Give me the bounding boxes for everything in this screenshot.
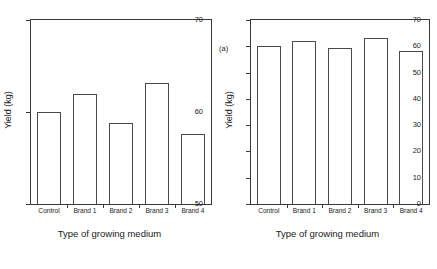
y-tick: [246, 73, 251, 74]
y-tick-label: 50: [413, 69, 421, 77]
y-tick: [246, 151, 251, 152]
x-tick: [103, 204, 104, 208]
y-tick-label: 30: [413, 121, 421, 129]
x-tick-label: Brand 4: [400, 207, 423, 214]
x-tick: [393, 204, 394, 208]
x-axis-title-b: Type of growing medium: [218, 228, 437, 239]
chart-panel-a: 506070 ControlBrand 1Brand 2Brand 3Brand…: [0, 0, 219, 250]
x-tick-label: Brand 3: [145, 207, 168, 214]
y-tick: [26, 204, 31, 205]
bar: [257, 46, 281, 204]
x-tick: [139, 204, 140, 208]
x-tick-label: Control: [38, 207, 59, 214]
y-tick-label: 60: [413, 43, 421, 51]
y-tick: [246, 125, 251, 126]
y-tick-label: 60: [195, 108, 203, 116]
x-tick-label: Brand 1: [293, 207, 316, 214]
bar: [328, 48, 352, 204]
y-tick: [246, 178, 251, 179]
y-tick-label: 20: [413, 148, 421, 156]
y-tick-label: 70: [195, 16, 203, 24]
y-tick-label: 10: [413, 174, 421, 182]
y-tick: [26, 20, 31, 21]
bar: [181, 134, 205, 204]
bar: [37, 112, 61, 204]
x-tick-label: Control: [258, 207, 279, 214]
y-tick-label: 70: [413, 16, 421, 24]
bar-group-b: [251, 20, 429, 204]
y-tick: [246, 99, 251, 100]
bar: [109, 123, 133, 204]
x-tick-label: Brand 2: [328, 207, 351, 214]
x-tick-label: Brand 3: [364, 207, 387, 214]
bar-group-a: [31, 20, 211, 204]
bar: [145, 83, 169, 204]
x-tick-label: Brand 1: [73, 207, 96, 214]
y-tick-label: 40: [413, 95, 421, 103]
x-tick: [358, 204, 359, 208]
y-tick: [246, 46, 251, 47]
y-tick: [26, 112, 31, 113]
x-axis-title-a: Type of growing medium: [0, 228, 219, 239]
plot-area-b: 010203040506070 ControlBrand 1Brand 2Bra…: [250, 19, 430, 205]
x-tick: [322, 204, 323, 208]
y-axis-title-b: Yield (kg): [224, 80, 234, 140]
x-tick-label: Brand 2: [109, 207, 132, 214]
x-tick: [67, 204, 68, 208]
x-tick: [175, 204, 176, 208]
chart-panel-b: 010203040506070 ControlBrand 1Brand 2Bra…: [218, 0, 437, 250]
bar: [292, 41, 316, 204]
y-tick: [246, 204, 251, 205]
y-axis-title-a: Yield (kg): [3, 80, 13, 140]
bar: [73, 94, 97, 204]
x-tick-label: Brand 4: [181, 207, 204, 214]
y-tick: [246, 20, 251, 21]
plot-area-a: 506070 ControlBrand 1Brand 2Brand 3Brand…: [30, 19, 212, 205]
bar: [364, 38, 388, 204]
x-tick: [287, 204, 288, 208]
figure-two-bar-charts: 506070 ControlBrand 1Brand 2Brand 3Brand…: [0, 0, 437, 269]
